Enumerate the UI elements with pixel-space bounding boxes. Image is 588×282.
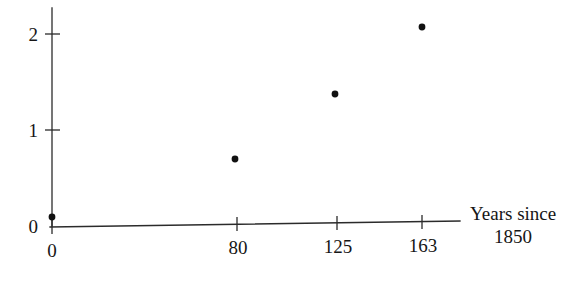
x-tick-label-0: 0 [47, 241, 57, 260]
data-point [232, 156, 239, 163]
data-point [49, 214, 56, 221]
y-tick-label-1: 1 [29, 121, 39, 140]
scatter-plot-figure: 2 1 0 0 80 125 163 Years since 1850 [0, 0, 588, 282]
x-axis-caption: Years since 1850 [470, 202, 556, 248]
x-tick-label-125: 125 [324, 237, 353, 256]
x-axis-caption-line-1: Years since [470, 202, 556, 225]
y-tick-label-2: 2 [29, 25, 39, 44]
x-tick-label-80: 80 [229, 238, 248, 257]
x-axis-caption-line-2: 1850 [470, 225, 556, 248]
data-point [332, 91, 339, 98]
x-axis-line [50, 221, 460, 227]
y-tick-label-0: 0 [29, 217, 39, 236]
x-tick-label-163: 163 [409, 236, 438, 255]
data-point [419, 24, 426, 31]
